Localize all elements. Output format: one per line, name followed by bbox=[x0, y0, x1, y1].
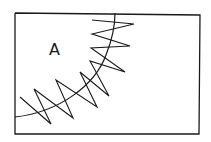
frame-border bbox=[15, 13, 200, 134]
diagram-canvas: A bbox=[0, 0, 211, 142]
figure-label: A bbox=[49, 40, 60, 59]
zigzag-coil bbox=[20, 20, 134, 124]
